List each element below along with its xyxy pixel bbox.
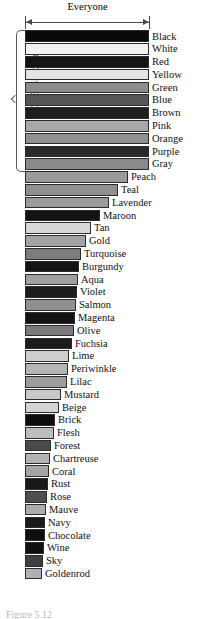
- bar-label-goldenrod: Goldenrod: [45, 567, 90, 580]
- bar-label-chocolate: Chocolate: [48, 529, 91, 542]
- bar-row: Brown: [0, 107, 198, 120]
- bar-label-teal: Teal: [121, 183, 139, 196]
- bar-label-pink: Pink: [152, 119, 171, 132]
- span-label-everyone: Everyone: [25, 1, 150, 13]
- bar-row: Gray: [0, 158, 198, 171]
- bar-row: Green: [0, 81, 198, 94]
- bar-label-tan: Tan: [94, 221, 110, 234]
- bar-row: Rose: [0, 491, 198, 504]
- bar-label-mauve: Mauve: [49, 503, 78, 516]
- bar-row: Periwinkle: [0, 363, 198, 376]
- bar-label-lime: Lime: [72, 349, 94, 362]
- bar-row: Coral: [0, 465, 198, 478]
- bar-label-chartreuse: Chartreuse: [53, 452, 98, 465]
- bar-fuchsia: [25, 338, 72, 350]
- bar-label-lilac: Lilac: [70, 375, 92, 388]
- bar-row: Violet: [0, 286, 198, 299]
- bar-label-burgundy: Burgundy: [82, 260, 124, 273]
- bar-label-purple: Purple: [152, 145, 179, 158]
- bar-forest: [25, 440, 51, 452]
- bar-olive: [25, 325, 74, 337]
- bar-label-brick: Brick: [58, 413, 81, 426]
- bar-peach: [25, 171, 128, 183]
- bar-row: Yellow: [0, 68, 198, 81]
- bar-row: White: [0, 43, 198, 56]
- bar-row: Aqua: [0, 273, 198, 286]
- bar-maroon: [25, 210, 100, 222]
- bar-row: Lilac: [0, 376, 198, 389]
- bar-label-orange: Orange: [152, 132, 183, 145]
- bar-label-red: Red: [152, 55, 169, 68]
- bar-label-mustard: Mustard: [64, 388, 99, 401]
- bar-label-periwinkle: Periwinkle: [71, 362, 117, 375]
- bar-mauve: [25, 504, 46, 516]
- bar-row: Sky: [0, 555, 198, 568]
- bar-row: Flesh: [0, 427, 198, 440]
- bar-row: Chocolate: [0, 529, 198, 542]
- bar-salmon: [25, 299, 76, 311]
- bar-label-sky: Sky: [46, 554, 62, 567]
- bar-row: Red: [0, 56, 198, 69]
- bar-row: Rust: [0, 478, 198, 491]
- bar-aqua: [25, 274, 78, 286]
- bar-label-black: Black: [152, 30, 177, 43]
- bar-label-magenta: Magenta: [78, 311, 115, 324]
- bar-flesh: [25, 427, 54, 439]
- bar-magenta: [25, 312, 75, 324]
- bar-label-blue: Blue: [152, 93, 172, 106]
- bar-label-maroon: Maroon: [103, 209, 136, 222]
- bar-row: Salmon: [0, 299, 198, 312]
- bar-rose: [25, 491, 47, 503]
- bar-row: Brick: [0, 414, 198, 427]
- bar-label-white: White: [152, 42, 178, 55]
- bar-label-gold: Gold: [89, 234, 110, 247]
- bar-mustard: [25, 389, 61, 401]
- bar-label-fuchsia: Fuchsia: [75, 337, 108, 350]
- bar-row: Blue: [0, 94, 198, 107]
- bar-label-aqua: Aqua: [81, 273, 104, 286]
- bar-chartreuse: [25, 453, 50, 465]
- bar-row: Black: [0, 30, 198, 43]
- bar-turquoise: [25, 248, 81, 260]
- bar-label-navy: Navy: [48, 516, 71, 529]
- bar-label-gray: Gray: [152, 157, 173, 170]
- bar-orange: [25, 133, 149, 145]
- bar-label-rust: Rust: [51, 477, 70, 490]
- bar-coral: [25, 465, 49, 477]
- bar-chart-figure: Everyone 11 Basic colors BlackWhiteRedYe…: [0, 0, 198, 619]
- bar-pink: [25, 120, 149, 132]
- bars-container: BlackWhiteRedYellowGreenBlueBrownPinkOra…: [0, 30, 198, 580]
- bar-label-peach: Peach: [131, 170, 156, 183]
- bar-label-brown: Brown: [152, 106, 181, 119]
- bar-label-yellow: Yellow: [152, 68, 182, 81]
- bar-label-lavender: Lavender: [112, 196, 152, 209]
- bar-label-forest: Forest: [54, 439, 80, 452]
- bar-row: Maroon: [0, 209, 198, 222]
- bar-row: Navy: [0, 516, 198, 529]
- bar-goldenrod: [25, 568, 42, 580]
- bar-row: Teal: [0, 184, 198, 197]
- arrow-right-icon: [143, 19, 149, 25]
- bar-black: [25, 30, 149, 42]
- bar-row: Forest: [0, 440, 198, 453]
- bar-lime: [25, 350, 69, 362]
- bar-chocolate: [25, 529, 45, 541]
- bar-row: Peach: [0, 171, 198, 184]
- bar-row: Lime: [0, 350, 198, 363]
- bar-lavender: [25, 197, 109, 209]
- bar-white: [25, 43, 149, 55]
- bar-label-violet: Violet: [80, 285, 106, 298]
- bar-tan: [25, 222, 91, 234]
- bar-row: Goldenrod: [0, 567, 198, 580]
- bar-teal: [25, 184, 118, 196]
- bar-label-coral: Coral: [52, 465, 75, 478]
- bar-gold: [25, 235, 86, 247]
- bar-label-rose: Rose: [50, 490, 71, 503]
- bar-row: Fuchsia: [0, 337, 198, 350]
- bar-label-flesh: Flesh: [57, 426, 80, 439]
- bar-row: Tan: [0, 222, 198, 235]
- bar-row: Burgundy: [0, 260, 198, 273]
- bar-violet: [25, 286, 77, 298]
- bar-row: Turquoise: [0, 248, 198, 261]
- bar-sky: [25, 555, 43, 567]
